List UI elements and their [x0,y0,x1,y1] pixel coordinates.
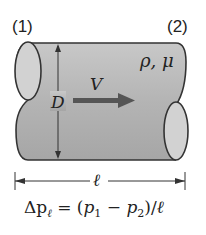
length-arrow-left-icon [15,178,25,184]
eq-minus: − [101,197,126,217]
length-arrow-right-icon [175,178,185,184]
diameter-label: D [51,92,65,112]
eq-lhs: Δp [24,197,47,217]
section-label-1: (1) [12,17,33,37]
pressure-drop-equation: Δpℓ = (p1 − p2)/ℓ [24,197,164,220]
eq-p2: p [126,197,137,217]
velocity-label: V [90,74,102,94]
length-label: ℓ [93,170,100,191]
pipe-right-end [164,102,188,160]
properties-label: ρ, μ [140,50,174,71]
eq-p1: p [83,197,94,217]
pipe-left-end [15,42,41,100]
eq-ell: ℓ [157,197,164,217]
eq-equals: = ( [52,197,84,217]
velocity-arrow-shaft [73,98,121,103]
section-label-2: (2) [167,17,188,37]
eq-close: )/ [144,197,156,217]
